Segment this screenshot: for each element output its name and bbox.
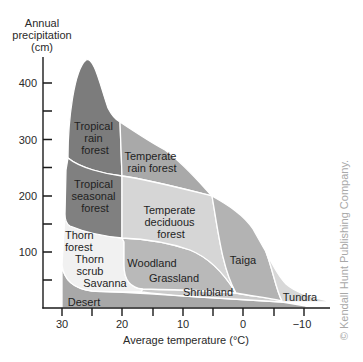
label-savanna: Savanna xyxy=(83,277,127,289)
label-grassland: Grassland xyxy=(149,272,199,284)
y-tick-100: 100 xyxy=(19,246,37,258)
label-shrubland: Shrubland xyxy=(183,286,233,298)
x-tick-20: 20 xyxy=(116,318,128,330)
x-axis-title: Average temperature (°C) xyxy=(123,334,249,346)
y-axis-title-line-2: precipitation xyxy=(12,29,71,41)
y-tick-300: 300 xyxy=(19,134,37,146)
label-temperate-rain-forest: Temperate rain forest xyxy=(124,150,179,174)
label-thorn-scrub: Thorn scrub xyxy=(75,253,107,277)
label-woodland: Woodland xyxy=(127,257,176,269)
label-tundra: Tundra xyxy=(283,291,318,303)
label-desert: Desert xyxy=(68,296,100,308)
x-tick-10: 10 xyxy=(177,318,189,330)
biome-chart: Annual precipitation (cm) Tropical rain … xyxy=(0,0,363,362)
label-thorn-forest: Thorn forest xyxy=(65,229,97,253)
y-tick-200: 200 xyxy=(19,190,37,202)
x-tick-minus-10: −10 xyxy=(293,318,312,330)
copyright-credit: © Kendall Hunt Publishing Company. xyxy=(338,160,350,340)
y-axis-title-line-1: Annual xyxy=(25,17,59,29)
x-tick-0: 0 xyxy=(240,318,246,330)
x-tick-30: 30 xyxy=(56,318,68,330)
y-axis-title-line-3: (cm) xyxy=(31,41,53,53)
label-taiga: Taiga xyxy=(230,254,257,266)
y-tick-400: 400 xyxy=(19,77,37,89)
